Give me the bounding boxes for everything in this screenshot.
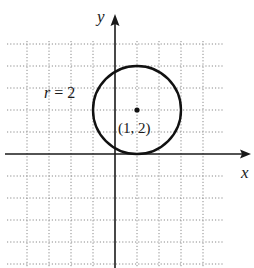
radius-label: r = 2: [44, 84, 75, 101]
center-label: (1, 2): [118, 120, 151, 137]
axes: [5, 14, 251, 268]
x-axis-label: x: [240, 163, 249, 182]
center-point: [134, 107, 139, 112]
y-axis-label: y: [95, 7, 105, 26]
circle-diagram: x y r = 2 (1, 2): [0, 0, 254, 268]
